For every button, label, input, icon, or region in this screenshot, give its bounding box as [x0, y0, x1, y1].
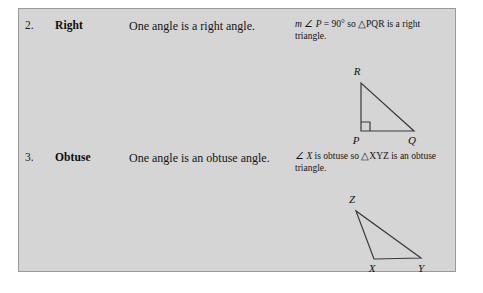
right-angle-marker-icon [361, 122, 370, 131]
row-number: 3. [25, 151, 47, 163]
right-triangle-shape [361, 83, 414, 131]
row-number: 2. [25, 19, 47, 31]
triangle-example-text: ∠ X is obtuse so △XYZ is an obtuse trian… [295, 150, 445, 174]
vertex-label-Z: Z [349, 193, 356, 205]
example-variable-m: m [295, 19, 302, 29]
example-triangle-symbol: △PQR [358, 19, 384, 29]
table-row: 3. Obtuse One angle is an obtuse angle. … [19, 141, 455, 273]
vertex-label-R: R [353, 65, 361, 77]
example-suffix: is a [387, 19, 400, 29]
triangle-description: One angle is an obtuse angle. [129, 151, 279, 166]
example-angle-expression: ∠ X [295, 151, 312, 161]
example-angle-expression: ∠ P [304, 19, 321, 29]
example-measure: = 90° so [324, 19, 356, 29]
example-measure: is obtuse so [315, 151, 359, 161]
vertex-label-Y: Y [418, 262, 426, 274]
obtuse-triangle-figure: Z X Y [295, 181, 451, 269]
table-row: 2. Right One angle is a right angle. m ∠… [19, 9, 455, 141]
definition-table-panel: 2. Right One angle is a right angle. m ∠… [18, 8, 456, 272]
triangle-example-text: m ∠ P = 90° so △PQR is a right triangle. [295, 18, 445, 42]
right-triangle-figure: R P Q [295, 49, 451, 137]
obtuse-triangle-shape [356, 211, 421, 259]
triangle-type-name: Obtuse [55, 151, 91, 163]
vertex-label-X: X [368, 262, 377, 274]
example-triangle-symbol: △XYZ [361, 151, 389, 161]
triangle-description: One angle is a right angle. [129, 19, 279, 34]
triangle-type-name: Right [55, 19, 83, 31]
